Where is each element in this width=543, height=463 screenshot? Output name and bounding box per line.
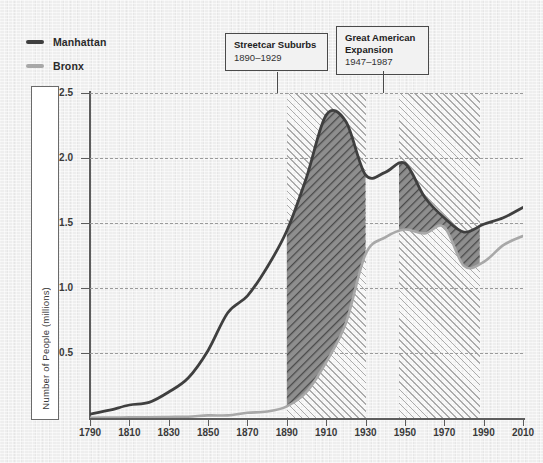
x-axis-tick-label: 1870 (227, 427, 267, 438)
x-axis-tick (208, 418, 209, 426)
y-axis-tick-label: 0.5 (39, 347, 73, 358)
y-axis-tick (81, 288, 90, 289)
x-axis-tick-label: 1850 (188, 427, 228, 438)
x-axis-tick (287, 418, 288, 426)
annotation-title: Streetcar Suburbs (234, 39, 319, 51)
x-axis-tick-label: 1790 (70, 427, 110, 438)
legend-item-label: Bronx (53, 60, 84, 72)
y-axis-tick-label: 1.5 (39, 217, 73, 228)
area-fill-manhattan (90, 110, 523, 417)
y-axis-tick (81, 158, 90, 159)
y-axis-tick-label: 2.5 (39, 87, 73, 98)
x-axis-tick (405, 418, 406, 426)
legend: Manhattan Bronx (26, 33, 106, 81)
legend-item-manhattan: Manhattan (26, 33, 106, 51)
annotation-stem (277, 72, 278, 93)
x-axis-tick-label: 1930 (346, 427, 386, 438)
annotation-range: 1890–1929 (234, 52, 319, 64)
y-axis-tick (81, 93, 90, 94)
annotation-great-american-expansion: Great American Expansion 1947–1987 (336, 26, 429, 75)
y-axis-tick-label: 1.0 (39, 282, 73, 293)
y-axis-tick (81, 223, 90, 224)
x-axis-tick (366, 418, 367, 426)
line-swatch-icon (26, 40, 44, 44)
x-axis-tick-label: 1990 (464, 427, 504, 438)
x-axis-tick (523, 418, 524, 426)
x-axis-tick (129, 418, 130, 426)
x-axis-tick (444, 418, 445, 426)
annotation-stem (383, 71, 384, 93)
series-curves (90, 93, 523, 418)
x-axis-tick-label: 1890 (267, 427, 307, 438)
line-swatch-icon (26, 64, 44, 68)
x-axis-tick-label: 1830 (149, 427, 189, 438)
y-axis-title: Number of People (millions) (31, 86, 59, 420)
x-axis-tick-label: 1810 (109, 427, 149, 438)
x-axis-tick-label: 1970 (424, 427, 464, 438)
x-axis-tick (326, 418, 327, 426)
legend-item-label: Manhattan (53, 36, 106, 48)
legend-item-bronx: Bronx (26, 57, 106, 75)
annotation-title-line2: Expansion (345, 44, 420, 56)
plot-area (90, 93, 523, 418)
x-axis-tick (169, 418, 170, 426)
y-axis-tick (81, 353, 90, 354)
x-axis-tick (90, 418, 91, 426)
x-axis-tick-label: 1910 (306, 427, 346, 438)
y-axis-tick-label: 2.0 (39, 152, 73, 163)
x-axis-tick-label: 1950 (385, 427, 425, 438)
annotation-range: 1947–1987 (345, 56, 420, 68)
annotation-streetcar-suburbs: Streetcar Suburbs 1890–1929 (225, 33, 328, 71)
x-axis-tick-label: 2010 (503, 427, 543, 438)
x-axis-line (89, 418, 525, 420)
x-axis-tick (247, 418, 248, 426)
x-axis-tick (484, 418, 485, 426)
annotation-title: Great American (345, 32, 420, 44)
